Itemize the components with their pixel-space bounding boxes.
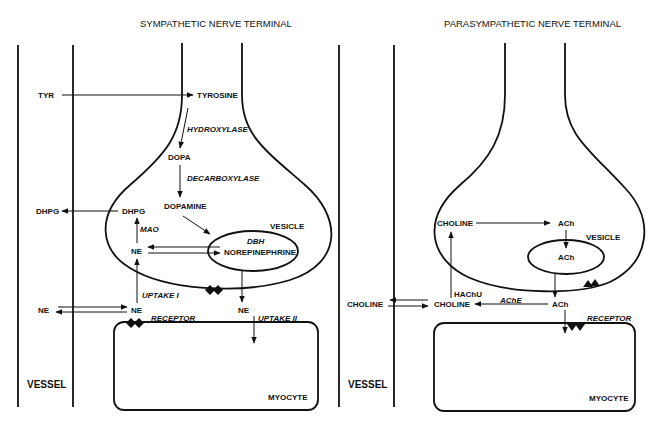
hydroxylase-label: HYDROXYLASE (187, 125, 249, 134)
ach-cleft-label: ACh (552, 300, 569, 309)
tyrosine-label: TYROSINE (197, 91, 239, 100)
receptor-label: RECEPTOR (151, 314, 196, 323)
dbh-label: DBH (247, 237, 265, 246)
sympathetic-panel: SYMPATHETIC NERVE TERMINAL VESSEL MYOCYT… (18, 18, 331, 410)
hachu-label: HAChU (454, 290, 482, 299)
dhpg-outside-label: DHPG (36, 207, 59, 216)
parasympathetic-panel: PARASYMPATHETIC NERVE TERMINAL VESSEL MY… (339, 18, 644, 411)
parasympathetic-title: PARASYMPATHETIC NERVE TERMINAL (444, 18, 621, 29)
nerve-terminal-diagram: SYMPATHETIC NERVE TERMINAL VESSEL MYOCYT… (0, 0, 670, 425)
norepinephrine-label: NOREPINEPHRINE (224, 248, 297, 257)
nerve-terminal-outline (435, 43, 645, 291)
ach-cytoplasm-label: ACh (558, 219, 575, 228)
tyr-label: TYR (38, 91, 54, 100)
receptor-label: RECEPTOR (587, 314, 632, 323)
ach-vesicle-label: ACh (558, 253, 575, 262)
choline-cleft-label: CHOLINE (434, 300, 471, 309)
uptake1-label: UPTAKE I (142, 291, 180, 300)
ne-vessel-label: NE (38, 306, 50, 315)
ne-cleft-label: NE (131, 306, 143, 315)
sympathetic-title: SYMPATHETIC NERVE TERMINAL (140, 18, 292, 29)
dhpg-inside-label: DHPG (122, 207, 145, 216)
ne-released-label: NE (238, 306, 250, 315)
uptake2-label: UPTAKE II (258, 314, 298, 323)
postsynaptic-receptor-icon (567, 324, 585, 331)
vesicle-label: VESICLE (586, 233, 621, 242)
vesicle-label: VESICLE (270, 222, 305, 231)
vessel-label: VESSEL (27, 379, 66, 390)
choline-vessel-label: CHOLINE (347, 300, 384, 309)
dopa-label: DOPA (168, 153, 191, 162)
ne-intracellular-label: NE (131, 247, 143, 256)
myocyte-label: MYOCYTE (589, 394, 629, 403)
dopamine-to-vesicle-arrow (183, 216, 210, 234)
myocyte-label: MYOCYTE (268, 393, 308, 402)
choline-intracellular-label: CHOLINE (437, 219, 474, 228)
vessel-label: VESSEL (348, 379, 387, 390)
postsynaptic-receptor-icon (126, 318, 144, 328)
presynaptic-receptor-icon (583, 279, 600, 287)
mao-label: MAO (140, 225, 159, 234)
dopamine-label: DOPAMINE (164, 202, 207, 211)
decarboxylase-label: DECARBOXYLASE (187, 174, 260, 183)
presynaptic-receptor-icon (205, 285, 223, 295)
